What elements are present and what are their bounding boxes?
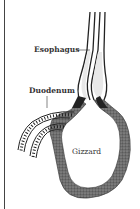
- digestive-diagram: [0, 0, 140, 209]
- esophagus-label: Esophagus: [34, 45, 79, 54]
- duodenum-label: Duodenum: [29, 86, 75, 95]
- esophagus-tube: [78, 12, 107, 100]
- gizzard-label: Gizzard: [72, 147, 101, 156]
